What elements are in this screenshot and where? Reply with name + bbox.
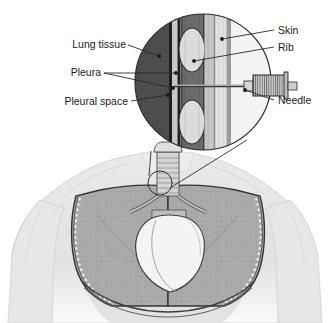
rib-lower bbox=[179, 100, 205, 144]
illustration-canvas: Lung tissue Pleura Pleural space Skin Ri… bbox=[0, 0, 330, 323]
lung-tissue-layer bbox=[135, 14, 169, 150]
skin-layer bbox=[227, 14, 232, 150]
pleural-space-layer bbox=[172, 14, 178, 150]
label-pleura: Pleura bbox=[71, 66, 102, 78]
visceral-pleura-layer bbox=[169, 14, 172, 150]
fat-layer bbox=[205, 14, 214, 150]
label-pleural-space: Pleural space bbox=[64, 95, 128, 107]
label-needle: Needle bbox=[278, 94, 311, 106]
label-skin: Skin bbox=[278, 24, 299, 36]
label-rib: Rib bbox=[278, 41, 294, 53]
thoracentesis-figure: Lung tissue Pleura Pleural space Skin Ri… bbox=[0, 0, 330, 323]
needle-shaft bbox=[174, 85, 245, 86]
rib-upper bbox=[179, 28, 205, 72]
label-lung-tissue: Lung tissue bbox=[72, 38, 126, 50]
